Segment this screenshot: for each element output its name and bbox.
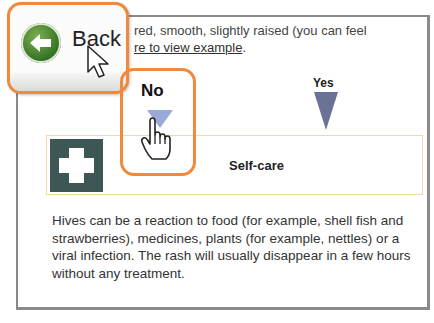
yes-option-label[interactable]: Yes xyxy=(313,76,334,90)
yes-arrow-icon[interactable] xyxy=(314,92,338,130)
back-arrow-circle-icon[interactable] xyxy=(21,23,61,63)
view-example-link[interactable]: re to view example xyxy=(134,40,242,55)
mouse-pointer-icon xyxy=(86,44,112,80)
result-title: Self-care xyxy=(229,158,284,173)
first-aid-cross-icon xyxy=(50,139,103,192)
link-suffix: . xyxy=(242,40,246,55)
intro-text: red, smooth, slightly raised (you can fe… xyxy=(134,22,367,56)
hand-pointer-icon xyxy=(140,117,174,163)
intro-question: red, smooth, slightly raised (you can fe… xyxy=(134,23,367,38)
result-description: Hives can be a reaction to food (for exa… xyxy=(52,212,412,282)
